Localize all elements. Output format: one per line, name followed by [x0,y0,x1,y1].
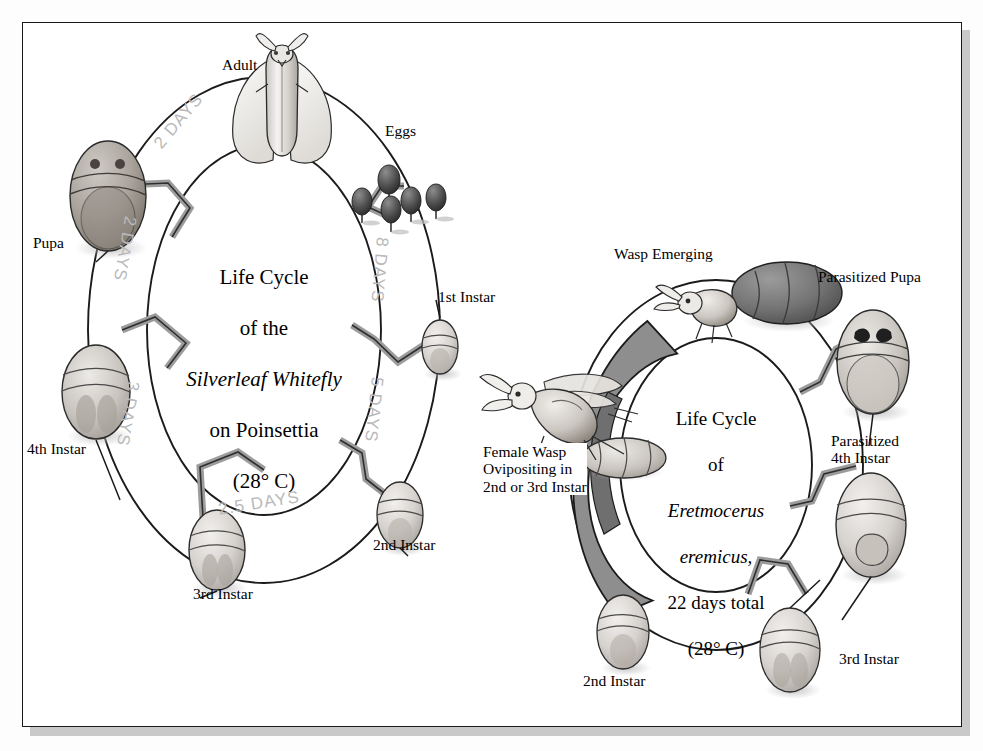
stage-label-female-wasp: Female Wasp Ovipositing in 2nd or 3rd In… [483,443,587,495]
stage-label-adult: Adult [222,56,257,73]
whitefly-center-line-2: Silverleaf Whitefly [150,367,378,392]
whitefly-center-line-3: on Poinsettia [150,418,378,443]
stage-label-4th-instar: 4th Instar [27,440,86,457]
stage-label-parasitized-pupa: Parasitized Pupa [818,268,921,285]
stage-label-pupa: Pupa [33,234,64,251]
adult-whitefly-icon [233,34,332,163]
whitefly-center-line-4: (28° C) [150,469,378,494]
parasitoid-center-line-2: Eretmocerus [626,500,806,523]
parasitoid-center-line-3: eremicus, [626,546,806,569]
stage-label-wasp-emerging: Wasp Emerging [614,245,713,262]
parasitoid-center-line-4: 22 days total [626,592,806,615]
whitefly-center-line-0: Life Cycle [150,265,378,290]
figure-canvas: Life Cycle of the Silverleaf Whitefly on… [0,0,983,751]
stage-label-p-3rd-instar: 3rd Instar [839,650,899,667]
stage-label-eggs: Eggs [385,122,416,139]
nymph-icon-3rd-instar [189,510,247,597]
parasitoid-center-label: Life Cycle of Eretmocerus eremicus, 22 d… [626,385,806,684]
parasitoid-center-line-5: (28° C) [626,638,806,661]
stage-label-3rd-instar: 3rd Instar [193,585,253,602]
whitefly-center-label: Life Cycle of the Silverleaf Whitefly on… [150,240,378,519]
whitefly-center-line-1: of the [150,316,378,341]
stage-label-1st-instar: 1st Instar [438,288,495,305]
wasp-emerging-icon [654,285,737,343]
stage-label-parasitized-4th-instar: Parasitized 4th Instar [831,432,899,467]
parasitoid-center-line-0: Life Cycle [626,408,806,431]
stage-label-p-2nd-instar: 2nd Instar [583,672,645,689]
nymph-icon-1st-instar [422,320,462,381]
stage-label-2nd-instar: 2nd Instar [373,536,435,553]
parasitized-nymph-icon [836,473,907,585]
diagram-artwork [0,0,983,751]
parasitized-pupa-icon [837,310,910,422]
parasitoid-center-line-1: of [626,454,806,477]
